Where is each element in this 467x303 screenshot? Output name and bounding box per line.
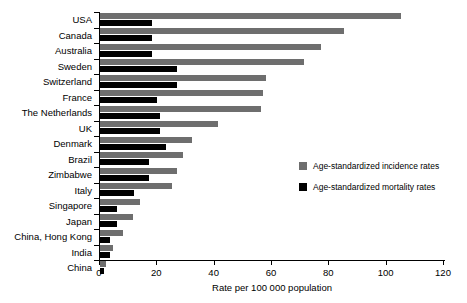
category-label: Sweden (0, 59, 92, 75)
chart-legend: Age-standardized incidence ratesAge-stan… (299, 161, 439, 203)
x-axis-tick-label: 60 (251, 267, 291, 278)
legend-label: Age-standardized incidence rates (313, 161, 439, 171)
bar-mortality (100, 128, 160, 134)
bar-group (100, 90, 444, 106)
bar-mortality (100, 51, 152, 57)
y-axis-tick (94, 245, 99, 246)
x-axis-tick-label: 0 (79, 267, 119, 278)
category-axis-labels: USACanadaAustraliaSwedenSwitzerlandFranc… (0, 12, 92, 260)
bar-chart-figure: USACanadaAustraliaSwedenSwitzerlandFranc… (0, 0, 467, 303)
x-axis-tick (156, 261, 157, 265)
bar-mortality (100, 190, 134, 196)
bar-group (100, 59, 444, 75)
bar-mortality (100, 159, 149, 165)
bar-mortality (100, 97, 157, 103)
legend-swatch (299, 162, 307, 170)
category-label: UK (0, 121, 92, 137)
y-axis-tick (94, 167, 99, 168)
bar-incidence (100, 28, 344, 34)
bar-mortality (100, 113, 160, 119)
x-axis-tick-label: 100 (366, 267, 406, 278)
x-axis-tick-label: 20 (136, 267, 176, 278)
bar-group (100, 136, 444, 152)
bar-incidence (100, 13, 401, 19)
bar-mortality (100, 35, 152, 41)
category-label: Canada (0, 28, 92, 44)
category-label: USA (0, 12, 92, 28)
category-label: Denmark (0, 136, 92, 152)
y-axis-tick (94, 74, 99, 75)
bar-mortality (100, 252, 110, 258)
bar-incidence (100, 199, 140, 205)
bar-incidence (100, 75, 266, 81)
y-axis-tick (94, 229, 99, 230)
y-axis-tick (94, 105, 99, 106)
x-axis-tick (271, 261, 272, 265)
bar-group (100, 12, 444, 28)
bar-group (100, 229, 444, 245)
category-label: Australia (0, 43, 92, 59)
legend-item: Age-standardized mortality rates (299, 182, 439, 192)
bar-incidence (100, 230, 123, 236)
category-label: The Netherlands (0, 105, 92, 121)
y-axis-tick (94, 43, 99, 44)
bar-incidence (100, 90, 263, 96)
category-label: India (0, 245, 92, 261)
category-label: Zimbabwe (0, 167, 92, 183)
bar-incidence (100, 152, 183, 158)
y-axis-tick (94, 214, 99, 215)
bar-incidence (100, 121, 218, 127)
x-axis-tick (99, 261, 100, 265)
bar-mortality (100, 144, 166, 150)
category-label: China, Hong Kong (0, 229, 92, 245)
category-label: Switzerland (0, 74, 92, 90)
legend-item: Age-standardized incidence rates (299, 161, 439, 171)
x-axis-tick-label: 120 (423, 267, 463, 278)
bar-incidence (100, 183, 172, 189)
y-axis-tick (94, 59, 99, 60)
x-axis-tick (386, 261, 387, 265)
x-axis-tick-label: 80 (308, 267, 348, 278)
category-label: Brazil (0, 152, 92, 168)
legend-label: Age-standardized mortality rates (313, 182, 435, 192)
x-axis-title: Rate per 100 000 population (99, 282, 445, 293)
y-axis-tick (94, 183, 99, 184)
category-label: Italy (0, 183, 92, 199)
y-axis-tick (94, 121, 99, 122)
bar-mortality (100, 206, 117, 212)
y-axis-tick (94, 12, 99, 13)
bar-incidence (100, 44, 321, 50)
bar-mortality (100, 20, 152, 26)
bar-incidence (100, 214, 133, 220)
bar-group (100, 214, 444, 230)
category-label: Japan (0, 214, 92, 230)
y-axis-tick (94, 152, 99, 153)
y-axis-tick (94, 90, 99, 91)
bar-incidence (100, 106, 261, 112)
y-axis-tick (94, 136, 99, 137)
plot-area (100, 12, 444, 260)
bar-mortality (100, 237, 110, 243)
bar-incidence (100, 245, 113, 251)
bar-mortality (100, 221, 117, 227)
bar-group (100, 245, 444, 261)
bar-group (100, 43, 444, 59)
x-axis-tick (214, 261, 215, 265)
legend-swatch (299, 183, 307, 191)
bar-mortality (100, 66, 177, 72)
bar-incidence (100, 137, 192, 143)
bar-group (100, 105, 444, 121)
bar-mortality (100, 82, 177, 88)
bar-incidence (100, 168, 177, 174)
x-axis-tick (443, 261, 444, 265)
bar-group (100, 121, 444, 137)
bar-group (100, 28, 444, 44)
category-label: France (0, 90, 92, 106)
bar-incidence (100, 261, 106, 267)
y-axis-tick (94, 28, 99, 29)
bar-group (100, 74, 444, 90)
category-label: Singapore (0, 198, 92, 214)
y-axis-tick (94, 198, 99, 199)
x-axis-tick (328, 261, 329, 265)
bar-incidence (100, 59, 304, 65)
